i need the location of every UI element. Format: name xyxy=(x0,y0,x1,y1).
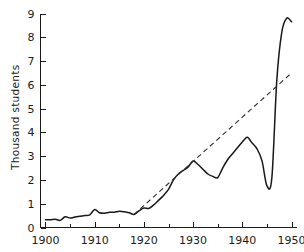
y-tick-label: 4 xyxy=(28,126,35,139)
x-tick-label: 1950 xyxy=(278,234,304,247)
x-tick-label: 1930 xyxy=(179,234,207,247)
y-tick-label: 9 xyxy=(28,8,35,21)
y-tick-label: 5 xyxy=(28,103,35,116)
y-tick-label: 2 xyxy=(28,174,35,187)
chart-canvas: Thousand students 0123456789 19001910192… xyxy=(0,0,304,252)
enrollment-series-line xyxy=(45,18,291,221)
x-tick-label: 1910 xyxy=(81,234,109,247)
x-tick-label: 1900 xyxy=(31,234,59,247)
y-axis-ticks xyxy=(41,15,46,229)
y-tick-label: 7 xyxy=(28,55,35,68)
y-tick-label: 1 xyxy=(28,198,35,211)
y-axis-title: Thousand students xyxy=(9,65,21,171)
x-tick-label: 1920 xyxy=(130,234,158,247)
x-axis-tick-labels: 190019101920193019401950 xyxy=(31,234,304,247)
y-axis-title-group: Thousand students xyxy=(9,65,21,171)
y-tick-label: 6 xyxy=(28,79,35,92)
y-tick-label: 8 xyxy=(28,31,35,44)
x-tick-label: 1940 xyxy=(228,234,256,247)
trend-series-line xyxy=(134,73,292,214)
axis-lines xyxy=(41,14,297,228)
chart-figure: Thousand students 0123456789 19001910192… xyxy=(0,0,304,252)
y-tick-label: 3 xyxy=(28,150,35,163)
x-axis-ticks xyxy=(46,222,293,228)
y-axis-tick-labels: 0123456789 xyxy=(28,8,35,235)
